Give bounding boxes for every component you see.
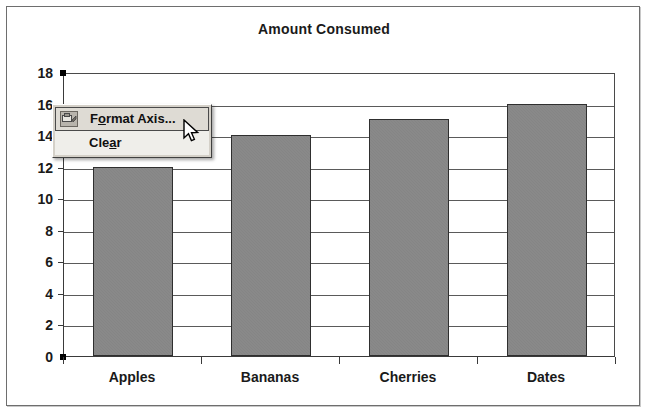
category-axis-tick [477, 357, 478, 364]
value-axis-tick [58, 294, 63, 295]
bar-cherries[interactable] [369, 119, 449, 356]
value-axis-label: 18 [13, 65, 53, 81]
category-label-apples[interactable]: Apples [63, 369, 201, 385]
value-axis-label: 4 [13, 286, 53, 302]
category-axis-tick [615, 357, 616, 364]
value-axis-label: 14 [13, 128, 53, 144]
context-menu[interactable]: Format Axis... Clear [52, 104, 212, 158]
menu-item-clear[interactable]: Clear [55, 131, 209, 155]
value-axis-label: 2 [13, 317, 53, 333]
value-axis-label: 16 [13, 97, 53, 113]
bar-dates[interactable] [507, 104, 587, 356]
category-label-bananas[interactable]: Bananas [201, 369, 339, 385]
format-axis-icon [60, 111, 78, 127]
bar-apples[interactable] [93, 167, 173, 356]
value-axis-tick [58, 325, 63, 326]
menu-item-format-axis[interactable]: Format Axis... [55, 107, 209, 131]
value-axis-label: 12 [13, 160, 53, 176]
value-axis-label: 6 [13, 254, 53, 270]
value-axis-tick [58, 199, 63, 200]
menu-item-clear-label: Clear [89, 135, 122, 150]
bar-bananas[interactable] [231, 135, 311, 356]
category-axis[interactable]: ApplesBananasCherriesDates [63, 357, 615, 406]
chart-title[interactable]: Amount Consumed [7, 21, 640, 37]
value-axis-tick [58, 262, 63, 263]
category-label-dates[interactable]: Dates [477, 369, 615, 385]
category-label-cherries[interactable]: Cherries [339, 369, 477, 385]
value-axis-tick [58, 231, 63, 232]
value-axis-tick [58, 168, 63, 169]
value-axis-label: 0 [13, 349, 53, 365]
chart-frame[interactable]: Amount Consumed 181614121086420 ApplesBa… [6, 6, 640, 406]
value-axis-label: 8 [13, 223, 53, 239]
value-axis-label: 10 [13, 191, 53, 207]
category-axis-tick [201, 357, 202, 364]
value-axis-selection-handle-top[interactable] [60, 70, 66, 76]
category-axis-tick [339, 357, 340, 364]
menu-item-format-axis-label: Format Axis... [90, 111, 176, 126]
category-axis-tick [63, 357, 64, 364]
